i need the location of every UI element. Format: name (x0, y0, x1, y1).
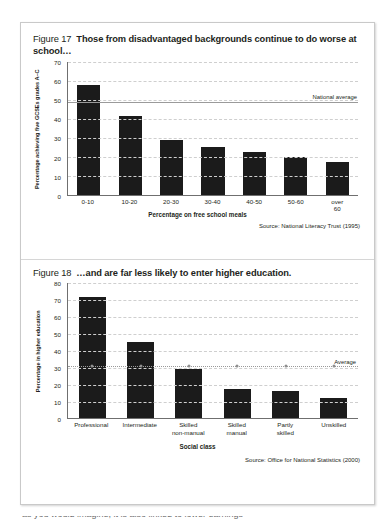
national-average-line (68, 102, 358, 103)
b-y-tick: 40 (54, 348, 61, 355)
average-marker (139, 365, 142, 368)
bar (79, 297, 106, 419)
chart-17-y-ticks: 010203040506070 (47, 62, 64, 196)
a-gridline (68, 81, 358, 82)
a-gridline (68, 157, 358, 158)
x-tick-label: 30-40 (192, 196, 234, 212)
average-marker (236, 365, 239, 368)
b-gridline (68, 317, 358, 318)
average-marker (332, 365, 335, 368)
a-y-tick: 70 (54, 58, 61, 65)
x-tick-label: over60 (316, 196, 358, 212)
chart-17-y-axis-label: Percentage achieving five GCSEs grades A… (32, 62, 44, 196)
bar (175, 369, 202, 418)
x-tick-label: 0-10 (67, 196, 109, 212)
b-y-tick: 70 (54, 297, 61, 304)
a-y-tick: 0 (58, 192, 61, 199)
x-tick-label: 10-20 (109, 196, 151, 212)
chart-17: Percentage achieving five GCSEs grades A… (33, 62, 362, 212)
figure-17-title-text: Those from disadvantaged backgrounds con… (33, 34, 357, 56)
chart-18: Percentage in higher education 010203040… (33, 283, 362, 435)
a-gridline (68, 138, 358, 139)
chart-18-x-ticks: ProfessionalIntermediateSkillednon-manua… (67, 419, 358, 435)
figure-17: Figure 17 Those from disadvantaged backg… (21, 23, 374, 259)
bar (272, 391, 299, 419)
a-gridline (68, 62, 358, 63)
chart-17-x-ticks: 0-1010-2020-3030-4040-5050-60over60 (67, 196, 358, 212)
figure-18-title: Figure 18 …and are far less likely to en… (33, 267, 362, 279)
a-gridline (68, 176, 358, 177)
bar (119, 116, 142, 195)
a-gridline (68, 119, 358, 120)
page-root: Figure 17 Those from disadvantaged backg… (0, 0, 391, 529)
b-y-tick: 80 (54, 280, 61, 287)
bar (201, 147, 224, 195)
b-gridline (68, 368, 358, 369)
chart-17-plot: National average (67, 62, 358, 196)
b-y-tick: 10 (54, 399, 61, 406)
b-y-tick: 0 (58, 416, 61, 423)
average-label: Average (334, 359, 356, 365)
chart-18-y-ticks: 01020304050607080 (47, 283, 64, 419)
a-y-tick: 40 (54, 116, 61, 123)
b-gridline (68, 334, 358, 335)
b-y-tick: 60 (54, 314, 61, 321)
figure-17-number: Figure 17 (33, 34, 71, 44)
average-marker (284, 365, 287, 368)
bar (326, 162, 349, 195)
bar (127, 342, 154, 418)
b-gridline (68, 385, 358, 386)
figure-17-source: Source: National Literacy Trust (1995) (33, 223, 362, 229)
x-tick-label: Unskilled (310, 419, 359, 435)
b-gridline (68, 283, 358, 284)
x-tick-label: Intermediate (116, 419, 165, 435)
chart-18-y-axis-label: Percentage in higher education (32, 283, 44, 419)
chart-18-plot-area: 01020304050607080 Average ProfessionalIn… (47, 283, 358, 435)
cutoff-body-text: as you would imagine, it is also linked … (22, 516, 372, 525)
x-tick-label: Professional (67, 419, 116, 435)
x-tick-label: Skilledmanual (213, 419, 262, 435)
figure-18-source: Source: Office for National Statistics (… (33, 457, 362, 463)
chart-17-x-axis-label: Percentage on free school meals (33, 211, 362, 218)
a-y-tick: 60 (54, 77, 61, 84)
figure-18: Figure 18 …and are far less likely to en… (21, 259, 374, 504)
x-tick-label: Skillednon-manual (164, 419, 213, 435)
x-tick-label: 20-30 (150, 196, 192, 212)
b-gridline (68, 351, 358, 352)
x-tick-label: Partlyskilled (261, 419, 310, 435)
b-y-tick: 30 (54, 365, 61, 372)
b-gridline (68, 402, 358, 403)
a-y-tick: 30 (54, 135, 61, 142)
chart-17-plot-area: 010203040506070 National average 0-1010-… (47, 62, 358, 212)
average-marker (187, 365, 190, 368)
bar (160, 140, 183, 195)
figures-panel: Figure 17 Those from disadvantaged backg… (20, 22, 375, 505)
chart-18-plot: Average (67, 283, 358, 419)
figure-18-number: Figure 18 (33, 268, 71, 278)
national-average-label: National average (312, 94, 357, 100)
bar (243, 152, 266, 195)
a-y-tick: 20 (54, 154, 61, 161)
a-y-tick: 10 (54, 173, 61, 180)
b-y-tick: 50 (54, 331, 61, 338)
figure-17-title: Figure 17 Those from disadvantaged backg… (33, 33, 362, 58)
average-marker (91, 365, 94, 368)
b-y-tick: 20 (54, 382, 61, 389)
bar (224, 389, 251, 419)
a-y-tick: 50 (54, 97, 61, 104)
b-gridline (68, 300, 358, 301)
figure-18-title-text: …and are far less likely to enter higher… (76, 268, 291, 278)
x-tick-label: 40-50 (233, 196, 275, 212)
average-line (68, 366, 358, 367)
x-tick-label: 50-60 (275, 196, 317, 212)
chart-18-x-axis-label: Social class (33, 443, 362, 450)
